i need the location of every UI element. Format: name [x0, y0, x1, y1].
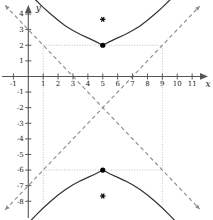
y-tick-label--5: -5 [17, 151, 24, 159]
y-tick-label-4: 4 [19, 10, 24, 18]
y-tick-label--8: -8 [17, 198, 24, 206]
x-tick-label-6: 6 [115, 80, 120, 88]
y-tick-label--6: -6 [17, 166, 24, 174]
y-axis-label: y [35, 3, 42, 13]
x-tick-label-1: 1 [41, 80, 45, 88]
x-tick-label-4: 4 [86, 80, 91, 88]
y-tick-label--4: -4 [17, 135, 24, 143]
lower-focus-marker [100, 194, 106, 199]
graph-canvas: -11234567891011-8-7-6-5-4-3-2-11234 xy [0, 0, 213, 220]
asymptote-positive-slope-arrowhead [5, 205, 9, 209]
x-tick-label-10: 10 [173, 80, 182, 88]
hyperbola-branches-group [13, 0, 192, 220]
x-tick-label--1: -1 [10, 80, 17, 88]
y-axis-arrowhead [25, 5, 32, 13]
hyperbola-figure: -11234567891011-8-7-6-5-4-3-2-11234 xy [0, 0, 213, 220]
axes-group [2, 5, 208, 218]
y-tick-label-1: 1 [19, 57, 23, 65]
asymptote-negative-slope-arrowhead [5, 5, 9, 9]
x-tick-label-8: 8 [145, 80, 149, 88]
x-tick-label-2: 2 [56, 80, 60, 88]
lower-vertex-point [100, 167, 105, 172]
x-axis-label: x [205, 79, 210, 89]
upper-focus-marker [100, 17, 106, 22]
y-tick-label--1: -1 [17, 88, 24, 96]
x-tick-label-7: 7 [130, 80, 134, 88]
y-tick-label-3: 3 [19, 26, 23, 34]
upper-vertex-point [100, 43, 105, 48]
x-tick-label-5: 5 [101, 80, 105, 88]
y-tick-label--3: -3 [17, 120, 24, 128]
guide-lines-group [43, 45, 162, 204]
asymptotes-group [5, 5, 199, 209]
x-tick-label-11: 11 [188, 80, 197, 88]
x-tick-label-3: 3 [71, 80, 75, 88]
y-tick-label--2: -2 [17, 104, 24, 112]
y-tick-label--7: -7 [17, 182, 24, 190]
x-tick-label-9: 9 [160, 80, 164, 88]
y-tick-label-2: 2 [19, 42, 23, 50]
